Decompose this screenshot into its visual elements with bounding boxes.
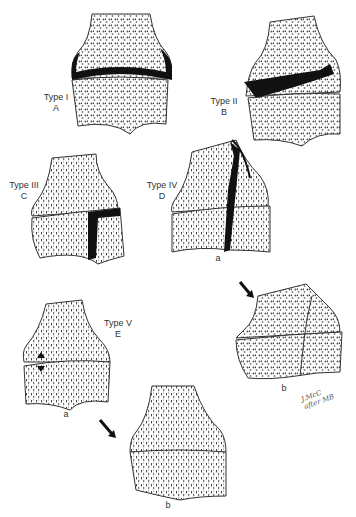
label-type-4-sub-a: a xyxy=(212,253,224,264)
panel-type-1 xyxy=(72,14,172,134)
label-type-3: Type IIIC xyxy=(6,180,42,202)
arrow-icon xyxy=(100,420,112,434)
fracture-diagram xyxy=(0,0,356,517)
label-type-5-sub-a: a xyxy=(60,409,72,420)
label-type-2: Type IIB xyxy=(206,96,242,118)
panel-type-3 xyxy=(32,154,125,264)
label-type-1: Type IA xyxy=(38,92,74,114)
label-type-5: Type VE xyxy=(100,318,136,340)
panel-type-5b xyxy=(130,386,226,500)
arrow-icon xyxy=(240,282,250,294)
panel-type-4a xyxy=(172,140,271,252)
label-type-4: Type IVD xyxy=(142,180,182,202)
panel-type-4b xyxy=(236,284,342,379)
panel-type-2 xyxy=(244,16,341,146)
panel-type-5a xyxy=(23,300,110,410)
label-type-4-sub-b: b xyxy=(278,383,290,394)
label-type-5-sub-b: b xyxy=(162,500,174,511)
